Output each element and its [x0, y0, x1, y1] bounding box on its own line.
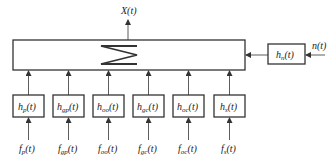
svg-text:foc(t): foc(t) [178, 143, 197, 156]
svg-text:hoc(t): hoc(t) [177, 101, 199, 114]
svg-text:hoo(t): hoo(t) [97, 101, 119, 114]
noise-input-label: n(t) [312, 40, 327, 52]
sum-icon [101, 46, 137, 64]
svg-text:hs(t): hs(t) [220, 101, 238, 114]
summing-block [13, 40, 245, 70]
output-label: X(t) [120, 5, 137, 17]
svg-text:hgc(t): hgc(t) [137, 101, 159, 114]
svg-text:hp(t): hp(t) [18, 101, 37, 114]
svg-text:fgc(t): fgc(t) [138, 143, 157, 156]
channel-s: hs(t) fs(t) [214, 71, 245, 156]
svg-text:hgp(t): hgp(t) [57, 101, 79, 114]
svg-text:fs(t): fs(t) [221, 143, 237, 156]
channel-p: hp(t) fp(t) [13, 71, 44, 156]
channel-oo: hoo(t) foo(t) [93, 71, 124, 156]
channel-oc: hoc(t) foc(t) [173, 71, 204, 156]
block-diagram: X(t) hn(t) n(t) hp(t) fp(t) hgp(t) fgp(t… [0, 0, 335, 157]
svg-text:foo(t): foo(t) [98, 143, 118, 156]
svg-text:fp(t): fp(t) [19, 143, 35, 156]
channel-gp: hgp(t) fgp(t) [53, 71, 84, 156]
channel-gc: hgc(t) fgc(t) [133, 71, 164, 156]
svg-text:fgp(t): fgp(t) [58, 143, 78, 156]
noise-block-label: hn(t) [276, 49, 295, 62]
